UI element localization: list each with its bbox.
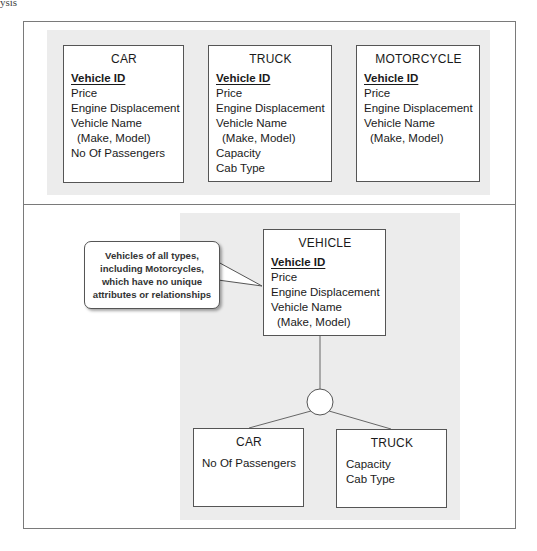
callout-pointer-icon [218,262,262,286]
attribute: Vehicle Name [271,300,379,315]
entity-vehicle-supertype: VEHICLE Vehicle ID Price Engine Displace… [263,229,386,336]
callout-note: Vehicles of all types, including Motorcy… [84,241,220,309]
entity-title: TRUCK [344,436,440,451]
primary-key: Vehicle ID [271,255,379,270]
entity-title: VEHICLE [271,236,379,251]
entity-title: CAR [201,435,297,450]
entity-car-subtype: CAR No Of Passengers [193,428,304,507]
callout-line: Vehicles of all types, [85,249,219,262]
connector-truck [329,411,391,429]
attribute: Price [271,270,379,285]
callout-line: including Motorcycles, [85,262,219,275]
callout-line: attributes or relationships [85,288,219,301]
callout-line: which have no unique [85,275,219,288]
entity-truck-subtype: TRUCK Capacity Cab Type [336,429,447,508]
attribute: Engine Displacement [271,285,379,300]
attribute: Cab Type [344,472,440,487]
subtype-circle-icon [307,389,333,415]
attribute: No Of Passengers [201,456,297,471]
attribute: (Make, Model) [271,315,379,330]
connector-car [249,411,311,428]
attribute: Capacity [344,457,440,472]
